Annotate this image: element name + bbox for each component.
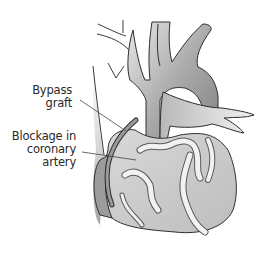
heart-bypass-diagram: Bypass graft Blockage in coronary artery bbox=[0, 0, 266, 255]
blockage-label-line3: artery bbox=[12, 156, 76, 169]
bypass-graft-label: Bypass graft bbox=[32, 84, 72, 110]
bypass-graft-label-line2: graft bbox=[32, 97, 72, 110]
blockage-label: Blockage in coronary artery bbox=[12, 130, 76, 169]
heart-illustration bbox=[0, 0, 266, 255]
bypass-graft-leader-line bbox=[80, 100, 126, 131]
